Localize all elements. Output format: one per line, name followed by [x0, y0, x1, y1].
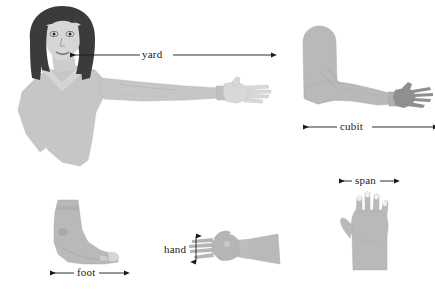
label-hand: hand: [164, 243, 186, 255]
label-span: span: [355, 174, 376, 186]
label-layer: yard cubit span foot hand: [0, 0, 435, 290]
label-cubit: cubit: [340, 120, 363, 132]
body-units-diagram: yard cubit span foot hand: [0, 0, 435, 290]
label-yard: yard: [142, 48, 162, 60]
label-foot: foot: [77, 266, 96, 278]
